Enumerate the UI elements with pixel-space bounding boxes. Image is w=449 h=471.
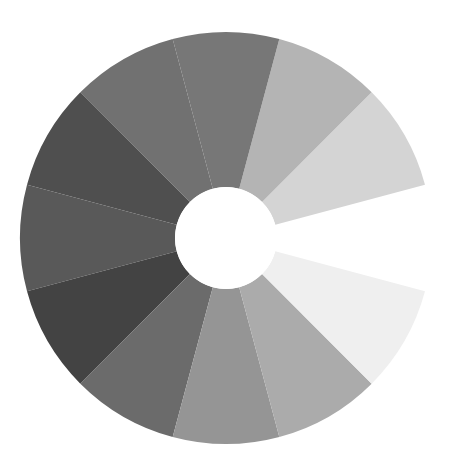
center-hole (175, 187, 277, 289)
grayscale-value-wheel (0, 0, 449, 471)
